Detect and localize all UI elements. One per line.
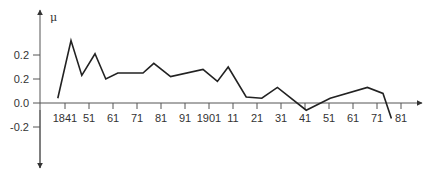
x-tick-label: 61 <box>347 112 359 124</box>
line-chart: 0.20.20.0-0.2 18415161718191190111213141… <box>0 0 434 177</box>
x-tick-label: 51 <box>83 112 95 124</box>
x-tick-label: 11 <box>227 112 238 124</box>
x-tick-label: 41 <box>299 112 311 124</box>
y-tick-label: 0.2 <box>14 73 29 85</box>
x-tick-label: 1841 <box>53 112 77 124</box>
x-tick-label: 71 <box>131 112 143 124</box>
x-tick-label: 81 <box>395 112 407 124</box>
x-axis: 1841516171819119011121314151617181 <box>33 103 422 124</box>
y-axis: 0.20.20.0-0.2 <box>10 10 40 168</box>
y-tick-label: -0.2 <box>10 121 29 133</box>
series-line <box>58 41 392 119</box>
data-series <box>58 41 392 119</box>
y-axis-title: μ <box>50 11 57 24</box>
x-tick-label: 91 <box>179 112 191 124</box>
x-tick-label: 1901 <box>197 112 221 124</box>
x-tick-label: 51 <box>323 112 335 124</box>
x-tick-label: 21 <box>251 112 263 124</box>
x-tick-label: 31 <box>275 112 287 124</box>
x-tick-label: 81 <box>155 112 167 124</box>
x-tick-label: 71 <box>371 112 383 124</box>
y-tick-label: 0.2 <box>14 49 29 61</box>
y-tick-label: 0.0 <box>14 97 29 109</box>
x-tick-label: 61 <box>107 112 119 124</box>
